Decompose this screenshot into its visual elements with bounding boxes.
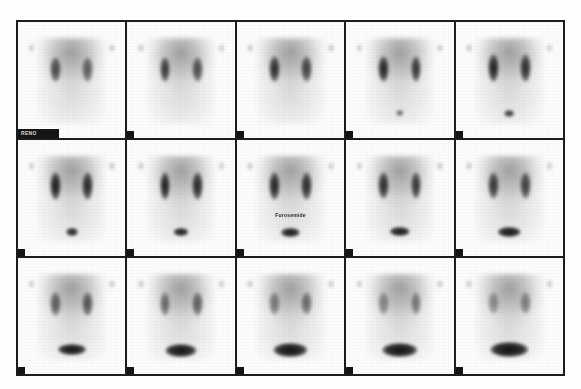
bladder-uptake xyxy=(58,344,86,356)
frame-corner-tick xyxy=(18,367,25,374)
scan-frame[interactable] xyxy=(18,258,125,374)
shoulder-marker-right xyxy=(218,43,226,53)
bladder-uptake xyxy=(491,342,529,357)
bladder-uptake xyxy=(396,110,404,116)
kidney-uptake-left xyxy=(488,292,499,314)
shoulder-marker-right xyxy=(546,279,554,289)
frame-id-text: RENO xyxy=(21,130,37,136)
scan-frame[interactable] xyxy=(237,22,344,138)
shoulder-marker-left xyxy=(28,279,36,289)
scan-frame[interactable] xyxy=(456,258,563,374)
frame-corner-tick xyxy=(456,131,463,138)
shoulder-marker-right xyxy=(108,43,116,53)
shoulder-marker-right xyxy=(327,279,335,289)
shoulder-marker-right xyxy=(546,161,554,171)
scan-frame[interactable] xyxy=(346,258,453,374)
body-silhouette xyxy=(37,38,106,124)
shoulder-marker-right xyxy=(327,43,335,53)
shoulder-marker-left xyxy=(246,161,254,171)
shoulder-marker-right xyxy=(436,43,444,53)
body-silhouette xyxy=(147,38,216,124)
frame-corner-tick xyxy=(237,249,244,256)
shoulder-marker-right xyxy=(218,161,226,171)
kidney-uptake-right xyxy=(301,292,312,315)
kidney-uptake-right xyxy=(192,172,203,200)
frame-corner-tick xyxy=(18,249,25,256)
scan-frame[interactable] xyxy=(237,258,344,374)
bladder-uptake xyxy=(274,343,307,357)
frame-corner-tick xyxy=(346,249,353,256)
shoulder-marker-left xyxy=(465,43,473,53)
scan-sheet: RENOFurosemide xyxy=(0,0,581,389)
scan-frame[interactable] xyxy=(346,140,453,256)
shoulder-marker-left xyxy=(465,161,473,171)
frame-corner-tick xyxy=(456,367,463,374)
frame-corner-tick xyxy=(127,249,134,256)
kidney-uptake-left xyxy=(50,292,61,316)
kidney-uptake-right xyxy=(192,292,203,316)
shoulder-marker-left xyxy=(137,279,145,289)
shoulder-marker-right xyxy=(218,279,226,289)
shoulder-marker-right xyxy=(436,279,444,289)
kidney-uptake-right xyxy=(192,57,203,83)
frame-grid: RENOFurosemide xyxy=(16,20,565,376)
shoulder-marker-right xyxy=(108,279,116,289)
shoulder-marker-left xyxy=(137,161,145,171)
frame-id-bar: RENO xyxy=(18,129,59,138)
frame-annotation-label: Furosemide xyxy=(275,212,305,218)
shoulder-marker-right xyxy=(546,43,554,53)
kidney-uptake-right xyxy=(520,54,531,82)
bladder-uptake xyxy=(504,110,514,117)
kidney-uptake-right xyxy=(520,172,531,199)
shoulder-marker-left xyxy=(246,43,254,53)
scan-frame[interactable]: Furosemide xyxy=(237,140,344,256)
bladder-uptake xyxy=(382,343,417,357)
scan-frame[interactable] xyxy=(456,22,563,138)
frame-corner-tick xyxy=(456,249,463,256)
frame-corner-tick xyxy=(346,367,353,374)
shoulder-marker-right xyxy=(327,161,335,171)
shoulder-marker-left xyxy=(356,43,364,53)
kidney-uptake-left xyxy=(488,54,499,82)
scan-frame[interactable] xyxy=(127,140,234,256)
kidney-uptake-left xyxy=(269,56,280,83)
frame-corner-tick xyxy=(346,131,353,138)
shoulder-marker-right xyxy=(436,161,444,171)
kidney-uptake-left xyxy=(269,292,280,315)
frame-corner-tick xyxy=(237,131,244,138)
scan-frame[interactable]: RENO xyxy=(18,22,125,138)
scan-frame[interactable] xyxy=(18,140,125,256)
shoulder-marker-left xyxy=(28,161,36,171)
scan-frame[interactable] xyxy=(127,22,234,138)
frame-corner-tick xyxy=(237,367,244,374)
shoulder-marker-left xyxy=(356,279,364,289)
body-silhouette xyxy=(256,38,325,124)
frame-corner-tick xyxy=(127,367,134,374)
kidney-uptake-left xyxy=(269,172,280,200)
kidney-uptake-right xyxy=(520,292,531,314)
shoulder-marker-left xyxy=(246,279,254,289)
shoulder-marker-left xyxy=(137,43,145,53)
shoulder-marker-left xyxy=(465,279,473,289)
bladder-uptake xyxy=(66,228,78,236)
scan-frame[interactable] xyxy=(456,140,563,256)
kidney-uptake-left xyxy=(488,172,499,199)
shoulder-marker-right xyxy=(108,161,116,171)
frame-corner-tick xyxy=(127,131,134,138)
shoulder-marker-left xyxy=(356,161,364,171)
scan-frame[interactable] xyxy=(127,258,234,374)
bladder-uptake xyxy=(166,344,197,357)
scan-frame[interactable] xyxy=(346,22,453,138)
shoulder-marker-left xyxy=(28,43,36,53)
